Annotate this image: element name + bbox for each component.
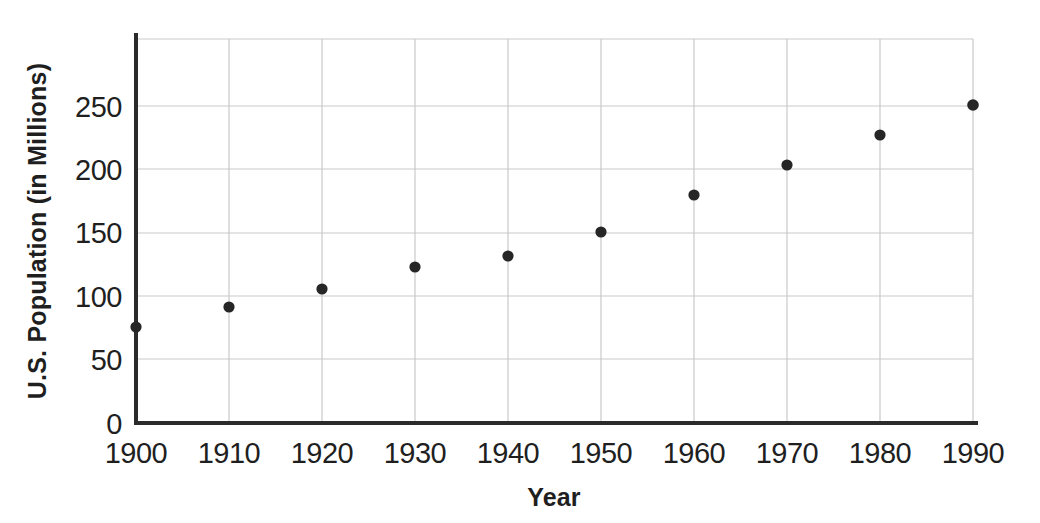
data-point: [130, 321, 141, 332]
x-tick-label-1950: 1950: [570, 437, 633, 469]
data-point: [316, 283, 327, 294]
x-tick-label-1980: 1980: [849, 437, 912, 469]
data-point: [781, 159, 792, 170]
chart-figure: 250 200 150 100 50 0 1900 1910 1920 1930…: [0, 0, 1040, 523]
y-tick-label-250: 250: [75, 91, 122, 123]
y-axis-title: U.S. Population (in Millions): [23, 63, 51, 399]
data-point: [688, 189, 699, 200]
x-tick-label-1920: 1920: [291, 437, 354, 469]
data-point: [874, 129, 885, 140]
data-point: [223, 301, 234, 312]
x-tick-label-1910: 1910: [198, 437, 261, 469]
scatter-plot-svg: 250 200 150 100 50 0 1900 1910 1920 1930…: [0, 0, 1040, 523]
y-tick-label-0: 0: [106, 408, 122, 440]
x-tick-labels: 1900 1910 1920 1930 1940 1950 1960 1970 …: [105, 437, 1005, 469]
x-axis-title: Year: [527, 483, 581, 511]
x-tick-label-1970: 1970: [756, 437, 819, 469]
y-tick-label-200: 200: [75, 154, 122, 186]
x-tick-label-1940: 1940: [477, 437, 540, 469]
y-tick-label-100: 100: [75, 281, 122, 313]
x-tick-label-1930: 1930: [384, 437, 447, 469]
plot-area-background: [136, 39, 973, 423]
y-tick-label-150: 150: [75, 217, 122, 249]
data-point: [595, 226, 606, 237]
x-tick-label-1990: 1990: [942, 437, 1005, 469]
y-tick-labels: 250 200 150 100 50 0: [75, 91, 122, 440]
data-point: [967, 99, 979, 111]
data-point: [409, 261, 420, 272]
data-point: [502, 250, 513, 261]
x-tick-label-1960: 1960: [663, 437, 726, 469]
y-tick-label-50: 50: [91, 344, 122, 376]
x-tick-label-1900: 1900: [105, 437, 168, 469]
